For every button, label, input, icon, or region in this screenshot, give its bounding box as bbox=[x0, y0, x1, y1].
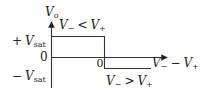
x-axis-label: V−−V+ bbox=[152, 56, 199, 71]
region-label-upper: V−<V+ bbox=[59, 18, 106, 33]
y-tick-zero: 0 bbox=[40, 50, 48, 64]
y-axis-label: Vo bbox=[45, 5, 59, 20]
region-label-lower: V−>V+ bbox=[106, 74, 153, 89]
y-tick-minus-vsat: −Vsat bbox=[12, 69, 47, 84]
transfer-characteristic-diagram: Vo +Vsat 0 −Vsat 0 V−<V+ V−>V+ V−−V+ bbox=[0, 0, 204, 98]
y-tick-plus-vsat: +Vsat bbox=[12, 34, 47, 49]
x-origin-label: 0 bbox=[97, 57, 104, 70]
